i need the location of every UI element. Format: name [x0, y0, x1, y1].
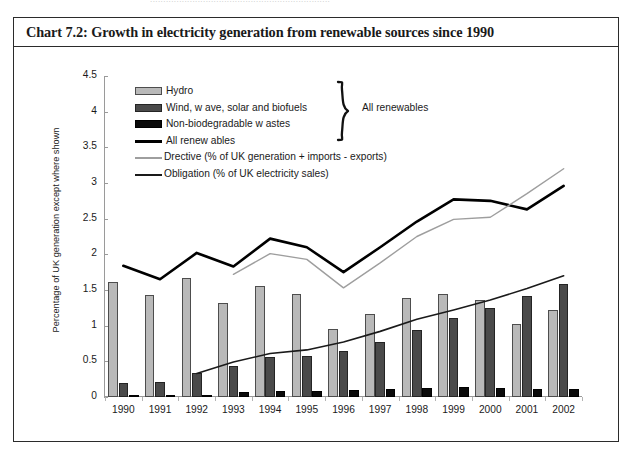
legend-label-wind: Wind, w ave, solar and biofuels — [166, 100, 307, 117]
all-renewables-brace-group: All renewables — [332, 80, 492, 142]
y-tick-label: 0 — [71, 391, 97, 401]
x-tick-label-1990: 1990 — [103, 404, 143, 415]
legend-swatch-allren — [135, 140, 162, 143]
y-tick-label: 4 — [71, 106, 97, 116]
x-tick-label-1992: 1992 — [177, 404, 217, 415]
y-axis-tick-labels: 4.543.532.521.510.50 — [71, 47, 97, 441]
legend-swatch-waste — [135, 120, 162, 128]
legend-swatch-hydro — [135, 87, 162, 95]
y-tick-label: 2 — [71, 248, 97, 258]
x-tick-mark — [215, 397, 216, 401]
plot-area: Percentage of UK generation except where… — [14, 47, 618, 441]
legend-item-directive[interactable]: Drective (% of UK generation + imports -… — [135, 149, 465, 166]
x-tick-label-1996: 1996 — [324, 404, 364, 415]
chart-frame: Chart 7.2: Growth in electricity generat… — [13, 17, 619, 442]
x-tick-label-1998: 1998 — [397, 404, 437, 415]
x-tick-mark — [142, 397, 143, 401]
x-tick-mark — [509, 397, 510, 401]
x-tick-mark — [545, 397, 546, 401]
page-bleed-text: ........................................… — [150, 0, 330, 4]
x-tick-mark — [362, 397, 363, 401]
x-tick-mark — [399, 397, 400, 401]
legend-swatch-obligation — [135, 174, 162, 176]
x-tick-mark — [288, 397, 289, 401]
x-tick-label-1993: 1993 — [213, 404, 253, 415]
legend-swatch-directive — [135, 157, 162, 159]
x-tick-mark — [472, 397, 473, 401]
x-tick-label-1997: 1997 — [360, 404, 400, 415]
x-tick-label-1991: 1991 — [140, 404, 180, 415]
legend-label-obligation: Obligation (% of UK electricity sales) — [164, 166, 329, 183]
y-tick-label: 1 — [71, 320, 97, 330]
x-tick-label-1995: 1995 — [287, 404, 327, 415]
brace-label: All renewables — [362, 102, 428, 113]
legend-label-directive: Drective (% of UK generation + imports -… — [164, 149, 387, 166]
x-tick-mark — [178, 397, 179, 401]
x-tick-label-1994: 1994 — [250, 404, 290, 415]
curly-brace-icon — [332, 80, 362, 142]
x-tick-mark — [325, 397, 326, 401]
chart-title: Chart 7.2: Growth in electricity generat… — [26, 24, 494, 41]
x-tick-label-1999: 1999 — [434, 404, 474, 415]
y-tick-label: 1.5 — [71, 284, 97, 294]
y-tick-label: 0.5 — [71, 355, 97, 365]
x-tick-mark — [582, 397, 583, 401]
line-all-renew-ables — [123, 186, 563, 279]
line-obligation-of-uk-electricity-sales — [197, 276, 564, 374]
y-axis-title: Percentage of UK generation except where… — [51, 125, 61, 335]
legend-label-waste: Non-biodegradable w astes — [166, 116, 290, 133]
x-tick-label-2000: 2000 — [470, 404, 510, 415]
page-scan-bleed: ........................................… — [0, 0, 632, 16]
y-tick-label: 2.5 — [71, 213, 97, 223]
x-tick-label-2002: 2002 — [544, 404, 584, 415]
x-tick-label-2001: 2001 — [507, 404, 547, 415]
legend-label-hydro: Hydro — [166, 83, 193, 100]
y-tick-label: 4.5 — [71, 70, 97, 80]
y-tick-label: 3 — [71, 177, 97, 187]
x-tick-mark — [105, 397, 106, 401]
y-tick-label: 3.5 — [71, 141, 97, 151]
x-tick-mark — [252, 397, 253, 401]
x-tick-mark — [435, 397, 436, 401]
legend-item-obligation[interactable]: Obligation (% of UK electricity sales) — [135, 166, 465, 183]
line-drective-of-uk-generation-imports-exports — [233, 169, 563, 288]
legend-label-allren: All renew ables — [166, 133, 235, 150]
legend-swatch-wind — [135, 104, 162, 112]
